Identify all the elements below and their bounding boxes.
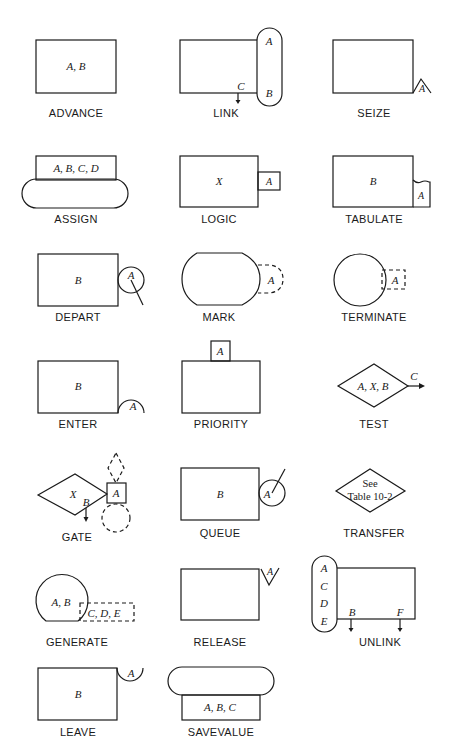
generate-operands: A, B <box>51 596 71 608</box>
unlink-operand-b: B <box>349 606 356 618</box>
block-tabulate: B A TABULATE <box>333 156 430 225</box>
logic-label: LOGIC <box>201 213 237 225</box>
enter-operand-b: B <box>75 380 82 392</box>
link-operand-c: C <box>237 80 245 92</box>
block-leave: B A LEAVE <box>38 667 143 738</box>
unlink-operand-f: F <box>396 606 404 618</box>
unlink-operand-d: D <box>319 597 328 609</box>
link-operand-a: A <box>265 35 273 47</box>
block-seize: A SEIZE <box>333 40 431 119</box>
unlink-operand-e: E <box>320 615 328 627</box>
block-logic: X A LOGIC <box>180 156 280 225</box>
block-transfer: See Table 10-2 TRANSFER <box>336 469 405 539</box>
block-mark: A MARK <box>182 253 283 323</box>
depart-label: DEPART <box>55 311 100 323</box>
block-link: A B C LINK <box>180 28 282 119</box>
queue-operand-b: B <box>217 488 224 500</box>
leave-operand-b: B <box>75 688 82 700</box>
gate-operand-x: X <box>69 488 78 500</box>
queue-label: QUEUE <box>200 527 241 539</box>
block-gate: X A B GATE <box>38 453 130 543</box>
unlink-operand-c: C <box>320 580 328 592</box>
assign-operands: A, B, C, D <box>52 162 98 174</box>
block-generate: A, B C, D, E GENERATE <box>36 575 134 648</box>
leave-operand-a: A <box>127 667 135 679</box>
generate-label: GENERATE <box>46 636 108 648</box>
block-savevalue: A, B, C SAVEVALUE <box>168 667 274 738</box>
gate-operand-a: A <box>112 487 120 499</box>
block-terminate: A TERMINATE <box>334 254 407 323</box>
block-priority: A PRIORITY <box>182 341 260 430</box>
link-label: LINK <box>213 107 239 119</box>
logic-operand-x: X <box>215 175 224 187</box>
savevalue-operands: A, B, C <box>203 701 236 713</box>
tabulate-label: TABULATE <box>345 213 403 225</box>
queue-operand-a: A <box>263 488 271 500</box>
seize-label: SEIZE <box>357 107 390 119</box>
block-queue: B A QUEUE <box>181 468 285 539</box>
block-assign: A, B, C, D ASSIGN <box>22 156 128 225</box>
block-release: A RELEASE <box>181 566 279 648</box>
seize-operand-a: A <box>418 83 426 94</box>
terminate-operand-a: A <box>391 274 399 286</box>
advance-operands: A, B <box>66 60 86 72</box>
tabulate-operand-b: B <box>370 175 377 187</box>
gate-label: GATE <box>62 531 92 543</box>
transfer-note-line1: See <box>362 478 378 489</box>
logic-operand-a: A <box>265 176 273 187</box>
priority-label: PRIORITY <box>194 418 249 430</box>
test-exit-c: C <box>410 370 418 382</box>
priority-operand-a: A <box>216 345 224 357</box>
block-enter: B A ENTER <box>38 361 144 430</box>
release-label: RELEASE <box>194 636 247 648</box>
depart-operand-b: B <box>75 274 82 286</box>
terminate-label: TERMINATE <box>341 311 406 323</box>
test-operands: A, X, B <box>356 380 388 392</box>
block-depart: B A DEPART <box>38 254 144 323</box>
test-label: TEST <box>359 418 388 430</box>
depart-operand-a: A <box>127 269 135 281</box>
unlink-operand-a: A <box>320 562 328 574</box>
enter-operand-a: A <box>129 400 137 412</box>
block-unlink: A C D E B F UNLINK <box>312 556 415 648</box>
mark-operand-a: A <box>267 274 275 286</box>
enter-label: ENTER <box>59 418 98 430</box>
generate-extra-operands: C, D, E <box>88 607 121 619</box>
transfer-label: TRANSFER <box>343 527 405 539</box>
link-operand-b: B <box>266 87 273 99</box>
gate-operand-b: B <box>83 496 90 508</box>
savevalue-label: SAVEVALUE <box>188 726 255 738</box>
advance-label: ADVANCE <box>49 107 103 119</box>
block-test: A, X, B C TEST <box>338 364 425 430</box>
release-operand-a: A <box>266 566 274 577</box>
assign-label: ASSIGN <box>54 213 97 225</box>
unlink-label: UNLINK <box>359 636 402 648</box>
mark-label: MARK <box>203 311 236 323</box>
block-advance: A, B ADVANCE <box>36 40 116 119</box>
leave-label: LEAVE <box>60 726 96 738</box>
transfer-note-line2: Table 10-2 <box>347 491 392 502</box>
tabulate-operand-a: A <box>417 190 425 201</box>
